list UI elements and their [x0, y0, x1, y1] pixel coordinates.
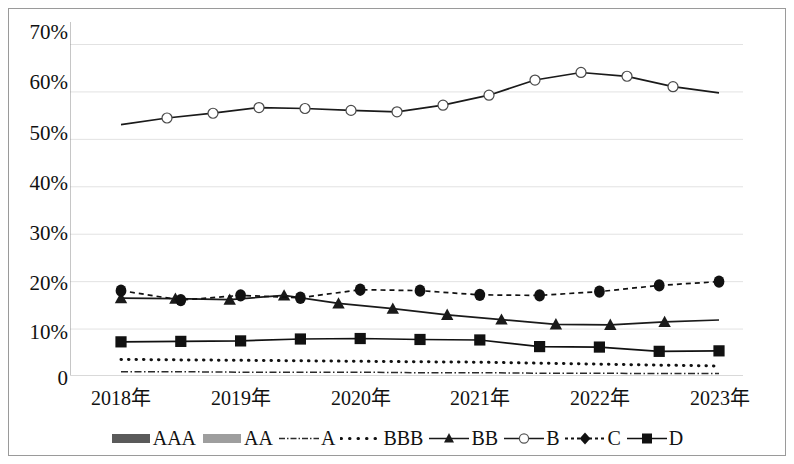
- marker-b-5: [346, 105, 356, 115]
- legend-key-a-icon: [278, 429, 320, 447]
- marker-c-0: [116, 284, 127, 296]
- marker-c-8: [594, 285, 605, 297]
- legend-key-bbb-icon: [340, 429, 382, 447]
- legend-item-bb[interactable]: BB: [428, 428, 499, 448]
- marker-b-12: [668, 82, 678, 92]
- marker-c-9: [654, 279, 665, 291]
- x-tick-2019: 2019年: [181, 388, 301, 408]
- marker-c-2: [235, 289, 246, 301]
- series-c: [116, 275, 725, 306]
- legend-key-c-icon: [564, 429, 606, 447]
- marker-b-4: [300, 104, 310, 114]
- marker-b-1: [162, 113, 172, 123]
- legend-label-d: D: [668, 428, 684, 448]
- marker-c-5: [415, 284, 426, 296]
- legend-item-b[interactable]: B: [503, 428, 560, 448]
- legend-item-aaa[interactable]: AAA: [110, 428, 197, 448]
- marker-d-10: [713, 345, 724, 356]
- marker-b-6: [392, 107, 402, 117]
- series-line-bb: [121, 295, 719, 324]
- marker-d-8: [594, 341, 605, 352]
- x-tick-2021: 2021年: [420, 388, 540, 408]
- marker-bb-3: [278, 289, 290, 300]
- chart-legend: AAA AA A BBB: [0, 428, 794, 448]
- marker-d-5: [414, 334, 425, 345]
- series-line-a: [121, 372, 719, 374]
- x-tick-2018: 2018年: [61, 388, 181, 408]
- marker-d-3: [295, 333, 306, 344]
- marker-d-6: [474, 334, 485, 345]
- data-series-layer: [115, 67, 725, 373]
- legend-key-aaa-icon: [110, 429, 152, 447]
- legend-label-aa: AA: [243, 428, 274, 448]
- marker-b-9: [530, 75, 540, 85]
- chart-figure: 70% 60% 50% 40% 30% 20% 10% 0 2018年 2019…: [0, 0, 794, 464]
- marker-b-2: [208, 108, 218, 118]
- marker-c-4: [355, 283, 366, 295]
- legend-label-aaa: AAA: [152, 428, 197, 448]
- marker-b-11: [622, 71, 632, 81]
- marker-c-10: [714, 275, 725, 287]
- legend-key-aa-icon: [201, 429, 243, 447]
- legend-key-b-icon: [503, 429, 545, 447]
- marker-b-8: [484, 90, 494, 100]
- marker-c-7: [534, 289, 545, 301]
- plot-area: [70, 22, 743, 376]
- marker-d-0: [115, 336, 126, 347]
- legend-item-d[interactable]: D: [626, 428, 684, 448]
- legend-label-a: A: [320, 428, 336, 448]
- legend-label-bbb: BBB: [382, 428, 424, 448]
- marker-d-1: [175, 336, 186, 347]
- legend-label-b: B: [545, 428, 560, 448]
- series-d: [115, 333, 724, 357]
- marker-c-1: [175, 294, 186, 306]
- marker-d-2: [235, 335, 246, 346]
- legend-label-bb: BB: [470, 428, 499, 448]
- marker-c-3: [295, 292, 306, 304]
- chart-svg: [70, 22, 743, 376]
- x-tick-2022: 2022年: [540, 388, 660, 408]
- legend-item-a[interactable]: A: [278, 428, 336, 448]
- marker-b-7: [438, 100, 448, 110]
- marker-d-7: [534, 341, 545, 352]
- x-tick-2023: 2023年: [660, 388, 780, 408]
- marker-c-6: [474, 289, 485, 301]
- legend-item-bbb[interactable]: BBB: [340, 428, 424, 448]
- marker-d-9: [654, 346, 665, 357]
- legend-item-aa[interactable]: AA: [201, 428, 274, 448]
- marker-d-4: [355, 333, 366, 344]
- series-a: [121, 372, 719, 374]
- marker-b-10: [576, 67, 586, 77]
- legend-key-bb-icon: [428, 429, 470, 447]
- legend-item-c[interactable]: C: [564, 428, 621, 448]
- gridlines: [70, 45, 743, 377]
- series-b: [121, 67, 719, 124]
- x-tick-2020: 2020年: [301, 388, 421, 408]
- legend-label-c: C: [606, 428, 621, 448]
- series-line-bbb: [121, 359, 719, 366]
- legend-key-d-icon: [626, 429, 668, 447]
- series-bbb: [121, 359, 719, 366]
- marker-b-3: [254, 103, 264, 113]
